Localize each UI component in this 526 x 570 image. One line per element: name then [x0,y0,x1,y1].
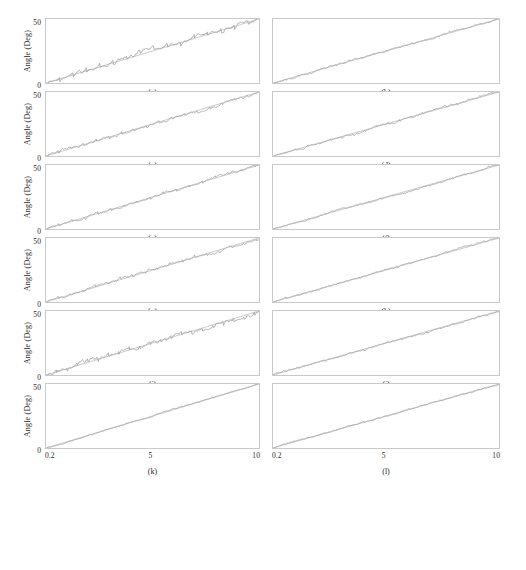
subplot-c: Angle (Deg)500 [0,87,266,160]
plot-area-h [273,238,499,302]
axes-frame-c [45,91,260,157]
x-tick-right-k: 10 [246,451,260,460]
plot-area-f [273,165,499,229]
plot-area-a [46,19,259,83]
y-axis-ticks-c: 500 [20,91,44,159]
plot-area-j [273,311,499,375]
y-tick-top-e: 50 [33,165,41,173]
subplot-caption-l: (l) [272,467,500,477]
axes-frame-h [272,237,500,303]
y-tick-top-g: 50 [33,238,41,246]
y-axis-ticks-g: 500 [20,237,44,305]
subplot-row-2: Angle (Deg)500(c)(d) [0,87,526,160]
subplot-e: Angle (Deg)500 [0,160,266,233]
x-tick-left-l: 0.2 [272,451,282,460]
measured-curve-g [46,239,259,302]
subplot-j [266,306,526,379]
y-axis-ticks-k: 500 [20,383,44,451]
subplot-l: 0.2510 [266,379,526,452]
y-tick-top-a: 50 [33,19,41,27]
axes-frame-e [45,164,260,230]
subplot-row-1: Angle (Deg)500(a)(b) [0,14,526,87]
subplot-i: Angle (Deg)500 [0,306,266,379]
y-axis-ticks-i: 500 [20,310,44,378]
subplot-row-3: Angle (Deg)500(e)(f) [0,160,526,233]
subplot-h [266,233,526,306]
plot-area-b [273,19,499,83]
axes-frame-b [272,18,500,84]
axes-frame-j [272,310,500,376]
axes-frame-k [45,383,260,449]
subplot-row-4: Angle (Deg)500(g)(h) [0,233,526,306]
subplot-row-5: Angle (Deg)500(i)(j) [0,306,526,379]
plot-area-d [273,92,499,156]
x-tick-mid-k: 5 [140,451,160,460]
subplot-caption-k: (k) [45,467,260,477]
subplot-row-6: Angle (Deg)5000.2510(k)0.2510(l) [0,379,526,475]
axes-frame-g [45,237,260,303]
reference-curve-h [273,238,499,302]
axes-frame-f [272,164,500,230]
subplot-d [266,87,526,160]
page-footer-rule [0,558,526,564]
axes-frame-a [45,18,260,84]
plot-area-g [46,238,259,302]
plot-area-i [46,311,259,375]
subplot-a: Angle (Deg)500 [0,14,266,87]
axes-frame-l [272,383,500,449]
x-tick-left-k: 0.2 [45,451,55,460]
x-axis-ticks-k: 0.2510 [0,451,266,463]
figure-canvas: Angle (Deg)500(a)(b)Angle (Deg)500(c)(d)… [0,0,526,570]
x-tick-mid-l: 5 [374,451,394,460]
subplot-f [266,160,526,233]
y-tick-top-k: 50 [33,384,41,392]
subplot-g: Angle (Deg)500 [0,233,266,306]
subplot-b [266,14,526,87]
y-tick-top-i: 50 [33,311,41,319]
y-axis-ticks-e: 500 [20,164,44,232]
plot-area-k [46,384,259,448]
axes-frame-i [45,310,260,376]
plot-area-e [46,165,259,229]
subplot-k: Angle (Deg)5000.2510 [0,379,266,452]
y-tick-top-c: 50 [33,92,41,100]
measured-curve-j [273,312,499,375]
x-axis-ticks-l: 0.2510 [266,451,526,463]
measured-curve-d [273,92,499,156]
subplot-grid: Angle (Deg)500(a)(b)Angle (Deg)500(c)(d)… [0,0,526,548]
y-axis-ticks-a: 500 [20,18,44,86]
plot-area-c [46,92,259,156]
axes-frame-d [272,91,500,157]
x-tick-right-l: 10 [486,451,500,460]
plot-area-l [273,384,499,448]
